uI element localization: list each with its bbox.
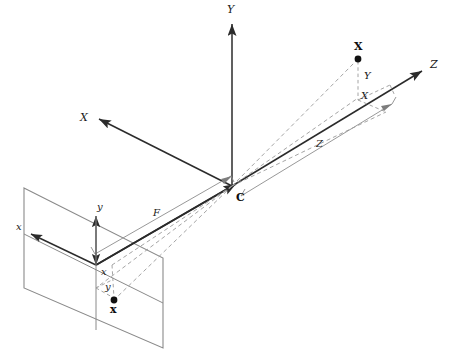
label-world-z: Z (429, 58, 438, 71)
world-z-axis (232, 71, 422, 186)
label-image-y-axis: y (96, 201, 103, 212)
ray-to-scene-foot (232, 98, 358, 186)
label-component-z: Z (315, 138, 324, 149)
principal-axis (96, 184, 236, 265)
label-camera-center: C (236, 191, 245, 204)
label-component-y: Y (364, 70, 372, 81)
label-image-offset-y: y (104, 281, 111, 292)
ray-to-component-x-end (232, 112, 386, 186)
scene-point-marker (355, 56, 362, 63)
z-measure-tick-end (392, 97, 396, 104)
world-x-axis (99, 119, 232, 186)
principal-ray-arrow (96, 184, 236, 265)
label-image-offset-x: x (101, 266, 107, 277)
label-world-y: Y (227, 3, 236, 16)
ray-to-image-offset-x (112, 186, 232, 265)
diagram-canvas: X Y Z C X x Y X Z F x y x y (0, 0, 449, 361)
ray-to-scene-point (232, 61, 356, 186)
focal-measure-line (95, 176, 231, 254)
pinhole-camera-figure: X Y Z C X x Y X Z F x y x y (0, 0, 449, 361)
z-measure-line (241, 104, 392, 196)
label-scene-point: X (354, 40, 363, 53)
label-component-x: X (360, 90, 369, 101)
world-axes (99, 24, 422, 186)
label-world-x: X (79, 111, 89, 124)
scene-point-components (358, 61, 395, 112)
label-focal-length: F (152, 207, 161, 218)
label-image-point: x (110, 303, 117, 316)
label-image-x-axis: x (16, 221, 22, 232)
